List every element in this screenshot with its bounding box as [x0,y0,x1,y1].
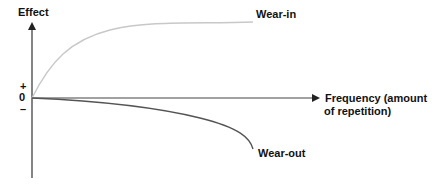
wear-in-wear-out-diagram: Effect + 0 – Wear-in Frequency (amount o… [0,0,440,187]
wear-in-label: Wear-in [256,8,296,21]
wear-out-label: Wear-out [258,147,305,160]
x-axis-label-line2: of repetition) [324,105,391,118]
wear-in-curve [32,22,253,98]
y-axis-label: Effect [18,6,49,19]
x-axis-label-line1: Frequency (amount [325,92,427,105]
minus-sign-label: – [20,103,26,116]
wear-out-curve [32,98,253,149]
